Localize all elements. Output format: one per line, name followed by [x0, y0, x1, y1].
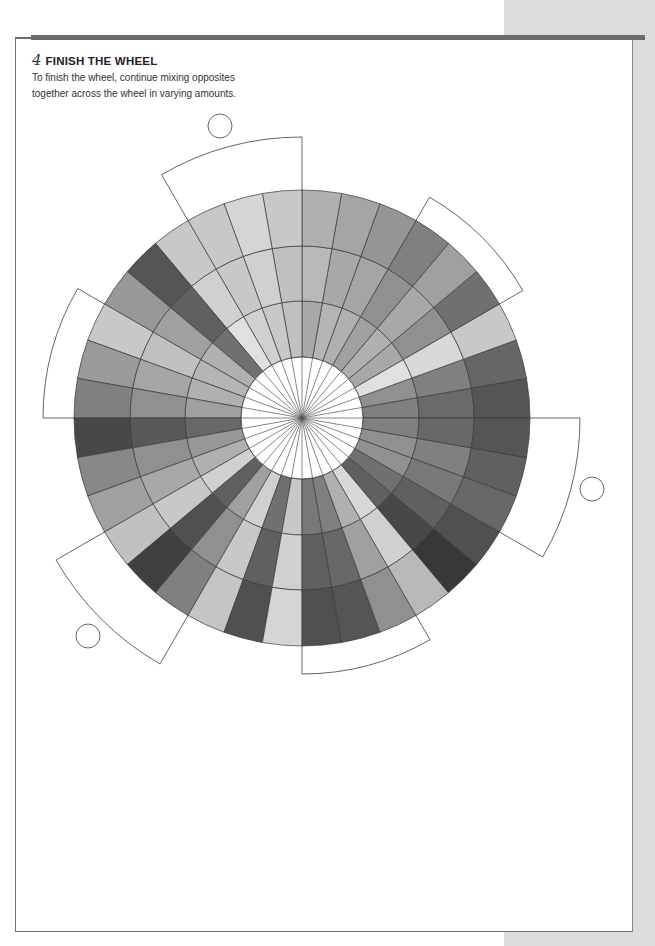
wheel-wedges [74, 190, 530, 646]
swatch-circle-icon [580, 477, 604, 501]
swatch-circle-icon [76, 624, 100, 648]
color-wheel-diagram [0, 0, 655, 946]
swatch-circle-icon [208, 114, 232, 138]
